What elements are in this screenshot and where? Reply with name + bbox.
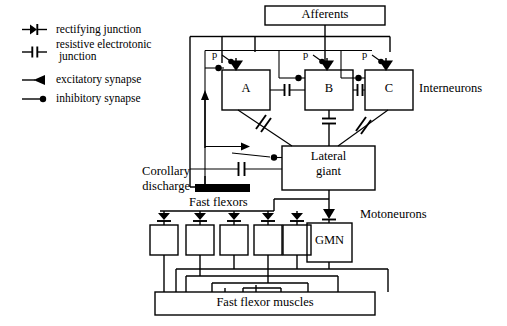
- rectifying-junction-lg-to-gmn: [322, 209, 336, 223]
- corollary-discharge-label-line1: Corollary: [100, 164, 190, 178]
- lateral-giant-label-line2: giant: [282, 165, 375, 179]
- rectifying-junction-c-to-lg: [338, 110, 388, 146]
- lateral-giant-label-line1: Lateral: [282, 150, 375, 164]
- interneuron-b-port-label: p: [303, 49, 308, 60]
- resistive-junction-ab: [270, 84, 305, 96]
- legend-icon-resistive-electrotonic-junction: [22, 47, 47, 58]
- inhibitory-synapse-to-lateral-giant: [232, 153, 282, 161]
- interneuron-c-label: C: [365, 82, 413, 96]
- resistive-junction-corollary-to-lg: [190, 162, 282, 176]
- flexor-motoneuron-group: [150, 211, 311, 292]
- interneuron-a-inputs: [205, 55, 243, 71]
- legend-icon-excitatory-synapse: [22, 75, 45, 85]
- legend-label-resistive-electrotonic-junction: resistive electrotonic junction: [56, 38, 151, 63]
- interneuron-a-port-label: p: [212, 49, 217, 60]
- interneurons-annotation: Interneurons: [419, 82, 482, 96]
- afferents-label: Afferents: [265, 8, 385, 22]
- corollary-discharge-label-line2: discharge: [100, 179, 190, 193]
- interneuron-a-label: A: [222, 82, 270, 96]
- resistive-junction-b-to-lg: [322, 110, 336, 146]
- resistive-junction-bc: [353, 84, 365, 96]
- legend-label-excitatory-synapse: excitatory synapse: [56, 73, 141, 85]
- fast-flexor-muscles-label: Fast flexor muscles: [155, 296, 375, 310]
- rectifying-junction-a-to-lg: [238, 110, 292, 146]
- legend-label-inhibitory-synapse: inhibitory synapse: [56, 92, 141, 104]
- fast-flexors-annotation: Fast flexors: [189, 196, 248, 210]
- figure-canvas: .s{stroke:#000;fill:none;} .w1{stroke-wi…: [0, 0, 507, 326]
- legend-icon-rectifying-junction: [22, 24, 47, 35]
- interneuron-b-label: B: [305, 82, 353, 96]
- corollary-discharge-bar: [195, 184, 250, 192]
- feedback-arrow-up: [201, 90, 209, 148]
- motoneuron-muscle-wiring: [176, 269, 388, 292]
- legend-label-rectifying-junction: rectifying junction: [56, 23, 141, 35]
- corollary-discharge-arrow: [205, 143, 250, 151]
- motoneurons-annotation: Motoneurons: [360, 208, 427, 222]
- interneuron-c-port-label: p: [362, 49, 367, 60]
- legend-icon-inhibitory-synapse: [22, 96, 46, 102]
- gmn-label: GMN: [307, 234, 352, 248]
